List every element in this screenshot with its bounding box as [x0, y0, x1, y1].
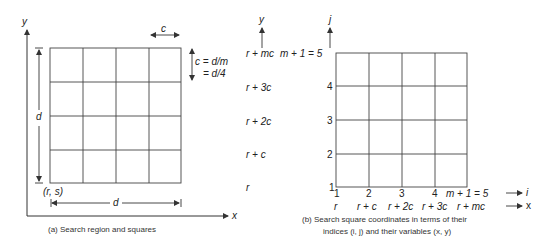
y-var-tick: r [246, 183, 249, 193]
y-var-tick: r + 2c [246, 117, 271, 127]
j-tick: 2 [327, 150, 333, 160]
y-var-tick: r + c [246, 150, 266, 160]
panel-b-x-var-axis-label: x [526, 201, 531, 211]
region-width-label: d [113, 198, 119, 208]
x-var-tick: r + 3c [422, 202, 447, 212]
i-tick: 4 [432, 189, 438, 199]
x-var-tick: r + mc [457, 202, 485, 212]
panel-b-caption-line1: (b) Search square coordinates in terms o… [302, 215, 467, 225]
x-var-tick: r + 2c [388, 202, 413, 212]
x-var-tick: r + c [357, 202, 377, 212]
i-tick: 2 [366, 189, 372, 199]
panel-a-caption: (a) Search region and squares [48, 225, 156, 235]
i-tick: 1 [334, 189, 340, 199]
i-tick: 3 [399, 189, 405, 199]
cell-width-label: c [161, 24, 166, 34]
panel-a-dimensions [35, 35, 192, 207]
panel-a-grid [50, 48, 181, 183]
panel-a-x-axis-label: x [232, 211, 237, 221]
y-var-tick: r + mc [246, 49, 274, 59]
panel-b-i-axis-label: i [526, 188, 528, 198]
region-height-label: d [36, 112, 42, 122]
j-tick: m + 1 = 5 [280, 49, 322, 59]
i-tick: m + 1 = 5 [446, 189, 488, 199]
cell-formula-line1: c = d/m [195, 57, 228, 67]
x-var-tick: r [334, 202, 337, 212]
panel-b-grid [336, 53, 467, 187]
origin-label: (r, s) [43, 187, 63, 197]
y-var-tick: r + 3c [246, 83, 271, 93]
panel-b-j-axis-label: j [329, 15, 331, 25]
panel-b-y-var-axis-label: y [259, 15, 264, 25]
j-tick: 4 [327, 82, 333, 92]
panel-b-caption-line2: indices (i, j) and their variables (x, y… [323, 227, 451, 237]
panel-a-y-axis-label: y [22, 17, 27, 27]
cell-formula-line2: = d/4 [203, 69, 226, 79]
j-tick: 3 [327, 116, 333, 126]
